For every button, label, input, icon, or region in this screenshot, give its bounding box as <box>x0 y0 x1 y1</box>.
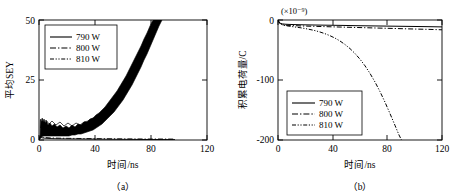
legend-a-label-810w: 810 W <box>76 54 101 64</box>
legend-b: 790 W 800 W 810 W <box>287 91 362 135</box>
legend-a-label-800w: 800 W <box>76 43 101 53</box>
y-axis-exponent-b: (×10⁻⁹) <box>281 6 308 16</box>
caption-b: （b） <box>348 181 373 192</box>
subplot-b: (×10⁻⁹) <box>232 0 464 195</box>
x-tick-label-b-80: 80 <box>382 144 392 154</box>
legend-b-label-790w: 790 W <box>319 98 344 108</box>
legend-b-label-810w: 810 W <box>319 120 344 130</box>
y-axis-title-a: 平均SEY <box>4 61 15 99</box>
x-tick-label-a-40: 40 <box>90 144 100 154</box>
y-tick-label-a-50: 50 <box>26 16 36 26</box>
y-tick-label-a-25: 25 <box>26 75 36 85</box>
x-axis-title-b: 时间/ns <box>344 159 375 170</box>
legend-a-label-790w: 790 W <box>76 32 101 42</box>
x-tick-label-a-120: 120 <box>200 144 215 154</box>
y-tick-label-b-100: -100 <box>257 75 275 85</box>
x-tick-label-b-120: 120 <box>435 144 450 154</box>
subplot-a-canvas: 0 40 80 120 0 25 50 时间/ns 平均SEY （a） <box>0 0 232 195</box>
y-tick-label-a-0: 0 <box>30 135 35 145</box>
legend-a: 790 W 800 W 810 W <box>45 25 117 69</box>
y-tick-label-b-200: -200 <box>257 135 275 145</box>
y-axis-title-b: 积累电荷量/C <box>237 51 248 110</box>
legend-b-label-800w: 800 W <box>319 109 344 119</box>
x-tick-label-b-40: 40 <box>328 144 338 154</box>
x-tick-label-a-0: 0 <box>37 144 42 154</box>
x-tick-label-a-80: 80 <box>146 144 156 154</box>
subplot-b-canvas: (×10⁻⁹) <box>232 0 464 195</box>
caption-a: （a） <box>111 181 135 192</box>
figure-container: 0 40 80 120 0 25 50 时间/ns 平均SEY （a） <box>0 0 464 195</box>
x-tick-label-b-0: 0 <box>276 144 281 154</box>
subplot-a: 0 40 80 120 0 25 50 时间/ns 平均SEY （a） <box>0 0 232 195</box>
x-axis-title-a: 时间/ns <box>107 159 138 170</box>
y-tick-label-b-0: 0 <box>269 16 274 26</box>
curve-b-790w <box>278 20 442 27</box>
